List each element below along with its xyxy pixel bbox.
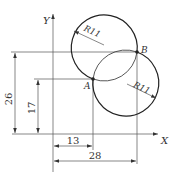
upper-circle: R11: [71, 15, 137, 81]
upper-radius-label: R11: [82, 23, 103, 40]
y-axis-label: Y: [43, 15, 51, 26]
dimension-17: 17: [26, 80, 38, 133]
dimension-17-label: 17: [26, 102, 37, 115]
dimension-26: 26: [3, 53, 15, 133]
dimension-26-label: 26: [3, 93, 14, 106]
point-a-label: A: [83, 81, 91, 91]
x-axis: X: [12, 134, 169, 146]
dimension-13-label: 13: [67, 135, 80, 146]
lower-circle: R11: [93, 50, 159, 116]
dimension-28: 28: [54, 150, 136, 161]
lower-radius-label: R11: [131, 79, 152, 96]
x-axis-label: X: [160, 135, 169, 146]
construction-diagram: Y X R11 R11 A B 26 17: [0, 0, 173, 176]
point-b-label: B: [140, 45, 148, 55]
dimension-28-label: 28: [89, 150, 102, 161]
dimension-13: 13: [54, 135, 92, 146]
y-axis: Y: [43, 14, 53, 172]
